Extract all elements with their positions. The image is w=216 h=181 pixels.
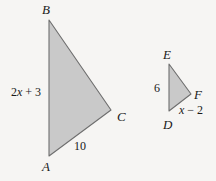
vertex-label-e: E — [163, 48, 171, 61]
side-length-label-df: x − 2 — [179, 104, 203, 116]
side-df-constant: − 2 — [184, 103, 203, 117]
vertex-label-a: A — [42, 160, 50, 173]
geometry-figure: B A C 2x + 3 10 E D F 6 x − 2 — [0, 0, 216, 181]
side-length-label-de: 6 — [154, 82, 160, 94]
vertex-label-d: D — [163, 118, 172, 131]
triangle-abc-shape — [49, 20, 111, 156]
vertex-label-b: B — [42, 3, 50, 16]
side-length-label-ab: 2x + 3 — [11, 86, 41, 98]
vertex-label-c: C — [117, 110, 126, 123]
side-ab-constant: + 3 — [22, 85, 41, 99]
side-length-label-ac: 10 — [74, 140, 86, 152]
vertex-label-f: F — [194, 88, 202, 101]
